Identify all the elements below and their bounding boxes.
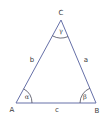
angle-label-gamma: γ bbox=[59, 27, 63, 35]
vertex-label-b: B bbox=[95, 107, 100, 115]
side-label-a: a bbox=[84, 56, 88, 64]
angle-gamma-arc bbox=[52, 36, 68, 38]
triangle-diagram: C A B b a c α β γ bbox=[0, 0, 104, 123]
side-a-edge bbox=[61, 20, 96, 103]
angle-label-alpha: α bbox=[25, 93, 30, 101]
vertex-label-c: C bbox=[59, 9, 64, 17]
side-b-edge bbox=[16, 20, 61, 103]
side-label-b: b bbox=[30, 56, 35, 64]
side-label-c: c bbox=[55, 106, 59, 114]
vertex-label-a: A bbox=[10, 106, 15, 114]
angle-label-beta: β bbox=[83, 93, 87, 101]
